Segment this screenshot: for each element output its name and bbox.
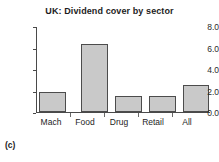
plot-area xyxy=(36,27,210,113)
ytick-label-8: 8.0 xyxy=(187,22,219,32)
bar-drug[interactable] xyxy=(115,96,142,112)
ytick-label-4: 4.0 xyxy=(187,65,219,75)
ytick-mark-2 xyxy=(33,92,36,93)
ytick-label-6: 6.0 xyxy=(187,44,219,54)
xtick-label-mach: Mach xyxy=(32,117,70,127)
bar-mach[interactable] xyxy=(39,92,66,112)
ytick-mark-8 xyxy=(33,27,36,28)
xtick-label-drug: Drug xyxy=(100,117,138,127)
ytick-label-2: 2.0 xyxy=(187,87,219,97)
figure-caption: (c) xyxy=(5,140,15,150)
chart-figure: UK: Dividend cover by sector 8.0 6.0 4.0… xyxy=(0,0,219,162)
xtick-label-all: All xyxy=(168,117,206,127)
ytick-mark-6 xyxy=(33,49,36,50)
xtick-label-food: Food xyxy=(66,117,104,127)
bar-food[interactable] xyxy=(81,44,108,112)
chart-title: UK: Dividend cover by sector xyxy=(0,6,219,16)
ytick-mark-0 xyxy=(33,113,36,114)
xtick-label-retail: Retail xyxy=(134,117,172,127)
ytick-mark-4 xyxy=(33,70,36,71)
bar-retail[interactable] xyxy=(149,96,176,112)
